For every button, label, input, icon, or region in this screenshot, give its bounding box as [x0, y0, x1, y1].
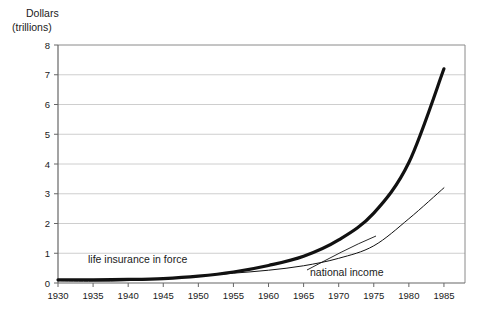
chart-svg: 012345678 193019351940194519501955196019… — [0, 0, 479, 313]
x-tick-label: 1960 — [258, 290, 279, 301]
y-tick-label: 1 — [45, 248, 50, 259]
y-tick-label: 6 — [45, 99, 50, 110]
x-tick-label: 1935 — [83, 290, 104, 301]
x-tick-label: 1965 — [293, 290, 314, 301]
x-tick-label: 1940 — [118, 290, 139, 301]
y-tick-label: 8 — [45, 40, 50, 51]
x-axis-ticks: 1930193519401945195019551960196519701975… — [47, 283, 454, 301]
y-tick-label: 2 — [45, 218, 50, 229]
x-tick-label: 1950 — [188, 290, 209, 301]
series-label-national-income: national income — [310, 266, 384, 278]
x-tick-label: 1955 — [223, 290, 244, 301]
x-tick-label: 1975 — [363, 290, 384, 301]
y-tick-label: 7 — [45, 69, 50, 80]
x-tick-label: 1980 — [398, 290, 419, 301]
y-tick-label: 0 — [45, 278, 50, 289]
y-tick-label: 3 — [45, 188, 50, 199]
y-tick-label: 5 — [45, 129, 50, 140]
series-label-life-insurance: life insurance in force — [88, 253, 187, 265]
x-tick-label: 1945 — [153, 290, 174, 301]
y-axis-ticks: 012345678 — [45, 40, 58, 289]
x-tick-label: 1970 — [328, 290, 349, 301]
x-tick-label: 1985 — [433, 290, 454, 301]
x-tick-label: 1930 — [47, 290, 68, 301]
chart-container: Dollars (trillions) 012345678 1930193519… — [0, 0, 479, 313]
y-tick-label: 4 — [45, 159, 50, 170]
plot-area: 012345678 193019351940194519501955196019… — [45, 40, 465, 302]
